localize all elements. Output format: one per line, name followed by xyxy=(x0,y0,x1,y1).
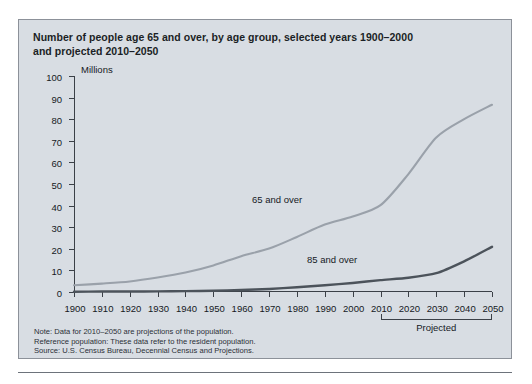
x-axis-tick-label: 1920 xyxy=(120,303,141,314)
x-axis-tick-label: 2000 xyxy=(343,303,364,314)
series-label-65-and-over: 65 and over xyxy=(252,194,302,205)
x-axis-tick: 2050 xyxy=(492,292,493,297)
x-axis-tick: 1940 xyxy=(185,292,186,297)
x-axis-tick: 1990 xyxy=(325,292,326,297)
x-axis-tick-label: 1960 xyxy=(232,303,253,314)
x-axis-tick-label: 2010 xyxy=(371,303,392,314)
x-axis-tick-label: 1970 xyxy=(259,303,280,314)
plot-area: 0102030405060708090100 19001910192019301… xyxy=(74,76,492,292)
y-axis-tick-label: 40 xyxy=(51,201,62,212)
title-line-2: and projected 2010–2050 xyxy=(33,44,493,58)
x-axis-tick: 1930 xyxy=(158,292,159,297)
series-label-85-and-over: 85 and over xyxy=(307,254,357,265)
x-axis-tick: 1950 xyxy=(213,292,214,297)
y-axis-tick-label: 10 xyxy=(51,266,62,277)
x-axis-tick: 2020 xyxy=(408,292,409,297)
bottom-divider xyxy=(18,372,512,373)
y-axis-units-label: Millions xyxy=(81,64,113,75)
footnote-note: Note: Data for 2010–2050 are projections… xyxy=(34,327,474,337)
chart-area: Millions 0102030405060708090100 19001910… xyxy=(19,64,513,322)
x-axis-tick-label: 1980 xyxy=(287,303,308,314)
x-axis-tick-label: 1940 xyxy=(176,303,197,314)
x-axis-tick: 2010 xyxy=(381,292,382,297)
footnotes: Note: Data for 2010–2050 are projections… xyxy=(34,327,474,356)
x-axis-tick: 2040 xyxy=(464,292,465,297)
y-axis-tick-label: 30 xyxy=(51,223,62,234)
y-axis-tick-label: 90 xyxy=(51,93,62,104)
y-axis-tick-label: 20 xyxy=(51,244,62,255)
footnote-source: Source: U.S. Census Bureau, Decennial Ce… xyxy=(34,346,474,356)
x-axis-tick: 2000 xyxy=(353,292,354,297)
y-axis-tick-label: 50 xyxy=(51,180,62,191)
x-axis-tick-label: 2040 xyxy=(455,303,476,314)
y-axis-tick-label: 100 xyxy=(46,72,62,83)
x-axis-tick-label: 1990 xyxy=(315,303,336,314)
x-axis-tick: 1980 xyxy=(297,292,298,297)
series-container xyxy=(74,76,492,292)
title-line-1: Number of people age 65 and over, by age… xyxy=(33,31,413,43)
footnote-reference-population: Reference population: These data refer t… xyxy=(34,337,474,347)
series-line-85-and-over xyxy=(74,247,492,292)
x-axis-tick-label: 1910 xyxy=(92,303,113,314)
x-axis-tick-label: 2050 xyxy=(482,303,503,314)
x-axis-tick-label: 1950 xyxy=(204,303,225,314)
y-axis-tick-label: 80 xyxy=(51,115,62,126)
figure-root: Number of people age 65 and over, by age… xyxy=(0,0,532,384)
x-axis-tick-label: 2030 xyxy=(427,303,448,314)
x-axis-tick-label: 2020 xyxy=(399,303,420,314)
chart-panel: Number of people age 65 and over, by age… xyxy=(18,19,512,359)
x-axis-tick: 1960 xyxy=(241,292,242,297)
projected-bracket xyxy=(381,314,492,320)
y-axis-tick-label: 60 xyxy=(51,158,62,169)
x-axis-tick-label: 1900 xyxy=(64,303,85,314)
x-axis-tick: 1970 xyxy=(269,292,270,297)
y-axis-tick-label: 70 xyxy=(51,136,62,147)
y-axis-tick-label: 0 xyxy=(57,288,62,299)
x-axis-tick: 2030 xyxy=(436,292,437,297)
x-axis-tick-label: 1930 xyxy=(148,303,169,314)
page-title: Number of people age 65 and over, by age… xyxy=(33,30,493,58)
